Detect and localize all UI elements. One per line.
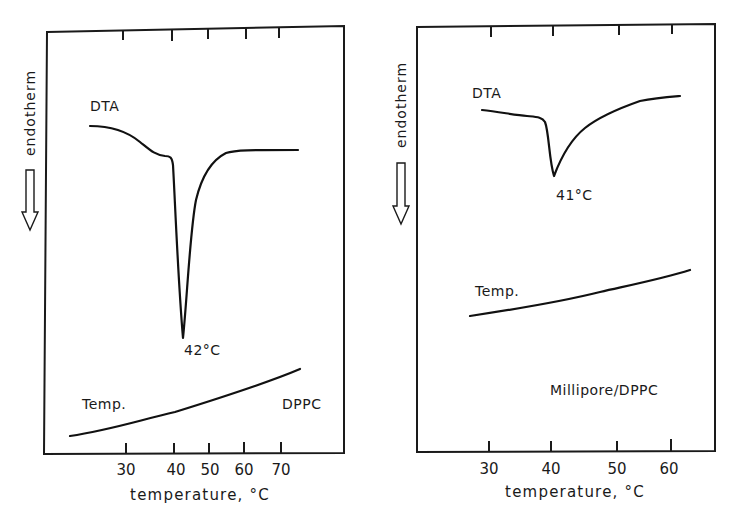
left-plot-frame <box>44 26 344 454</box>
left-sample-label: DPPC <box>282 396 321 412</box>
right-tick-label: 30 <box>479 460 498 478</box>
endotherm-down-arrow-icon <box>22 170 38 230</box>
left-dta-curve <box>90 126 298 338</box>
left-tick-label: 60 <box>234 461 253 479</box>
right-tick-label: 50 <box>607 460 626 478</box>
right-tick-label: 60 <box>659 460 678 478</box>
left-peak-label: 42°C <box>184 342 221 358</box>
right-temp-label: Temp. <box>474 283 519 299</box>
left-tick-label: 50 <box>200 461 219 479</box>
left-bottom-ticks <box>126 442 281 454</box>
right-panel: 30 40 50 60 temperature, °C endotherm DT… <box>393 24 715 501</box>
right-dta-curve <box>482 96 680 176</box>
right-tick-label: 40 <box>541 460 560 478</box>
left-dta-label: DTA <box>90 98 119 114</box>
right-bottom-ticks <box>489 439 671 452</box>
left-y-axis-label: endotherm <box>22 70 38 156</box>
left-panel: 30 40 50 60 70 temperature, °C endotherm… <box>22 26 344 504</box>
right-dta-label: DTA <box>472 85 501 101</box>
right-y-axis-label: endotherm <box>393 62 409 148</box>
right-sample-label: Millipore/DPPC <box>550 382 658 398</box>
right-x-axis-label: temperature, °C <box>505 483 645 501</box>
left-temp-label: Temp. <box>81 396 126 412</box>
endotherm-down-arrow-icon <box>393 163 409 224</box>
left-tick-label: 30 <box>116 461 135 479</box>
right-peak-label: 41°C <box>556 187 593 203</box>
figure: 30 40 50 60 70 temperature, °C endotherm… <box>0 0 742 527</box>
left-tick-label: 40 <box>166 461 185 479</box>
left-tick-label: 70 <box>271 461 290 479</box>
left-x-axis-label: temperature, °C <box>130 486 270 504</box>
